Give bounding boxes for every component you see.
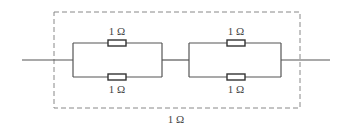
resistor-icon [227,74,245,80]
parallel-block-2: 1 Ω 1 Ω [189,25,281,95]
circuit-diagram: 1 Ω 1 Ω 1 Ω 1 Ω 1 Ω [0,0,346,131]
resistor-icon [227,40,245,46]
parallel-block-1: 1 Ω 1 Ω [73,25,162,95]
equivalent-resistance-label: 1 Ω [168,113,184,125]
resistor-label: 1 Ω [109,25,125,37]
resistor-label: 1 Ω [109,83,125,95]
resistor-icon [108,40,126,46]
resistor-icon [108,74,126,80]
resistor-label: 1 Ω [228,25,244,37]
resistor-label: 1 Ω [228,83,244,95]
